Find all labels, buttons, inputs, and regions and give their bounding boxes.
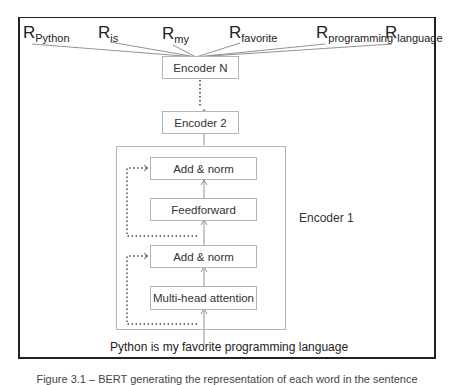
multi-head-attention-box: Multi-head attention (150, 286, 257, 310)
input-sentence: Python is my favorite programming langua… (110, 340, 348, 354)
multi-head-attention-label: Multi-head attention (153, 292, 254, 304)
add-norm-bottom-label: Add & norm (173, 251, 234, 263)
feedforward-label: Feedforward (171, 204, 236, 216)
add-norm-top-label: Add & norm (173, 163, 234, 175)
encoder-n-box: Encoder N (162, 56, 239, 79)
encoder-n-label: Encoder N (173, 62, 227, 74)
encoder-1-label: Encoder 1 (299, 211, 354, 225)
encoder-2-box: Encoder 2 (162, 111, 239, 134)
add-norm-top-box: Add & norm (150, 157, 257, 180)
add-norm-bottom-box: Add & norm (150, 245, 257, 268)
feedforward-box: Feedforward (150, 198, 257, 221)
encoder-2-label: Encoder 2 (174, 117, 226, 129)
figure-caption: Figure 3.1 – BERT generating the represe… (0, 373, 454, 385)
